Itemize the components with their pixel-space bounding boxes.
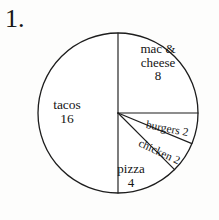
slice-label-tacos-name: tacos	[53, 97, 81, 112]
slice-label-mac-and-cheese: mac & cheese 8	[123, 42, 193, 83]
slice-label-mac-value: 8	[123, 69, 193, 83]
worksheet-page: Favorite Food 1. tacos 16 mac & cheese 8…	[0, 0, 219, 220]
slice-label-mac-name-line1: mac &	[140, 41, 175, 56]
slice-label-tacos-value: 16	[30, 112, 104, 126]
slice-label-mac-name-line2: cheese	[123, 56, 193, 70]
slice-label-pizza-name: pizza	[117, 161, 144, 176]
slice-label-pizza-value: 4	[104, 176, 158, 190]
slice-label-tacos: tacos 16	[30, 98, 104, 126]
slice-label-pizza: pizza 4	[104, 162, 158, 189]
